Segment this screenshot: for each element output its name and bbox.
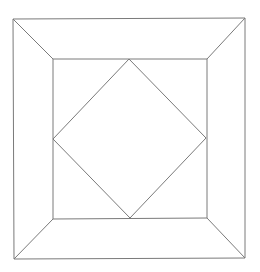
connector-top-left xyxy=(13,19,53,59)
inner-square xyxy=(53,59,207,219)
connector-top-right xyxy=(207,18,245,59)
connector-bottom-left xyxy=(14,219,53,259)
diagram-canvas xyxy=(0,0,260,272)
inscribed-diamond xyxy=(53,59,206,218)
corner-connectors xyxy=(13,18,245,259)
connector-bottom-right xyxy=(207,218,245,258)
nested-squares-diagram xyxy=(0,0,260,272)
diamond-outline xyxy=(53,59,206,218)
inner-square-outline xyxy=(53,59,207,219)
